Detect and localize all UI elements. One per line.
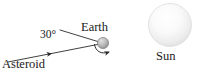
asteroid-label: Asteroid [2, 58, 45, 71]
angle-label: 30° [40, 29, 56, 41]
earth-sphere [97, 37, 108, 48]
sun-sphere [149, 4, 192, 47]
asteroid-trajectory-segment-b [48, 44, 100, 54]
sun-label: Sun [156, 50, 175, 63]
asteroid-earth-sun-diagram: Earth Sun Asteroid 30° [0, 0, 198, 81]
earth-label: Earth [81, 21, 108, 34]
